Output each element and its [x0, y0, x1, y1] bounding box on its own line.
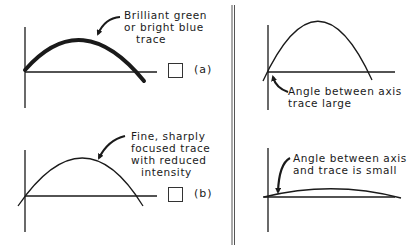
panel-divider — [232, 5, 235, 245]
panel-a-trace — [25, 40, 144, 81]
panel-b-tag: (b) — [194, 187, 213, 200]
annotation-line: Fine, sharply — [131, 130, 210, 142]
panel-b-arrow — [99, 136, 125, 158]
panel-b-indicator-box — [168, 187, 183, 202]
panel-c-annotation: Angle between axis trace large — [288, 85, 402, 109]
annotation-line: focused trace — [131, 142, 210, 154]
panel-a-tag: (a) — [194, 63, 212, 76]
panel-b-trace — [18, 158, 143, 206]
panel-c-arrow — [273, 77, 288, 92]
panel-d-arrow — [278, 158, 290, 192]
annotation-line: trace large — [288, 97, 402, 109]
annotation-line: or bright blue — [124, 21, 207, 33]
panel-b-annotation: Fine, sharply focused trace with reduced… — [131, 130, 210, 178]
panel-a-annotation: Brilliant green or bright blue trace — [124, 9, 207, 45]
annotation-line: Angle between axis — [293, 152, 407, 164]
annotation-line: intensity — [131, 166, 210, 178]
annotation-line: Brilliant green — [124, 9, 207, 21]
panel-a-indicator-box — [168, 63, 183, 78]
annotation-line: and trace is small — [293, 164, 407, 176]
annotation-line: with reduced — [131, 154, 210, 166]
annotation-line: trace — [124, 33, 207, 45]
panel-a-arrow — [98, 17, 120, 34]
annotation-line: Angle between axis — [288, 85, 402, 97]
panel-d-annotation: Angle between axis and trace is small — [293, 152, 407, 176]
